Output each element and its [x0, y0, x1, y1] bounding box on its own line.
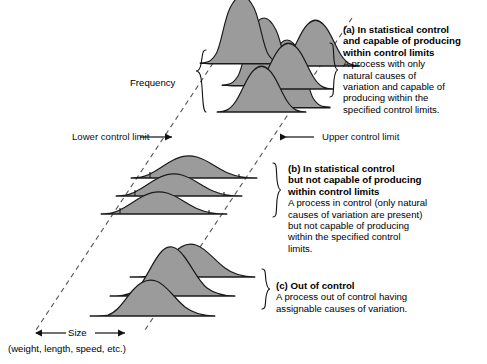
lower-control-limit-label: Lower control limit — [72, 131, 149, 142]
size-axis-label: Size — [68, 327, 87, 338]
block-a: (a) In statistical control and capable o… — [343, 24, 487, 115]
curve-b-far — [131, 156, 257, 178]
block-b-body: A process in control (only natural cause… — [288, 197, 487, 254]
upper-control-limit-label: Upper control limit — [322, 131, 399, 142]
block-b-brace — [273, 163, 281, 217]
size-axis-sublabel: (weight, length, speed, etc.) — [8, 343, 126, 354]
block-c: (c) Out of control A process out of cont… — [276, 280, 481, 314]
frequency-brace — [196, 50, 206, 112]
block-b: (b) In statistical control but not capab… — [288, 163, 487, 254]
block-a-body: A process with only natural causes of va… — [343, 58, 487, 115]
frequency-axis-label: Frequency — [130, 77, 175, 88]
group-c-curves — [90, 244, 255, 316]
block-c-brace — [262, 269, 270, 309]
process-control-figure: Frequency Lower control limit Upper cont… — [0, 0, 487, 364]
block-a-heading: (a) In statistical control and capable o… — [343, 24, 487, 58]
block-b-heading: (b) In statistical control but not capab… — [288, 163, 487, 197]
block-c-body: A process out of control having assignab… — [276, 291, 481, 314]
block-c-heading: (c) Out of control — [276, 280, 481, 291]
group-b-curves — [101, 156, 257, 214]
